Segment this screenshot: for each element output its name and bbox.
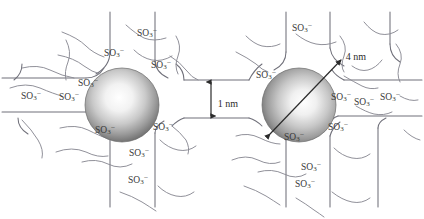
nanoparticle-left [85, 68, 159, 142]
backbone-lines [2, 12, 422, 207]
pendant-chains [10, 22, 420, 217]
nanoparticle-diagram: SO3− SO3− SO3− SO3− SO3− SO3− SO3− SO3− … [0, 0, 424, 219]
polymer-network-layer [0, 0, 424, 219]
